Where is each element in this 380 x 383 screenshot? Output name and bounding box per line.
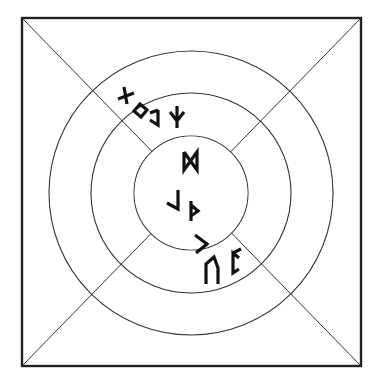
rune-gebo-icon — [118, 87, 134, 104]
rune-diagram — [0, 0, 380, 383]
rune-ing-icon — [134, 104, 147, 117]
rune-group-middle-bottom-right — [206, 249, 241, 284]
rune-eh-icon — [150, 110, 158, 125]
inner-disc — [135, 137, 248, 250]
rune-group-outer-top-left — [118, 87, 184, 128]
rune-uruz-icon — [206, 257, 218, 284]
rune-algiz-icon — [170, 106, 184, 128]
rune-perthro-icon — [233, 249, 241, 273]
